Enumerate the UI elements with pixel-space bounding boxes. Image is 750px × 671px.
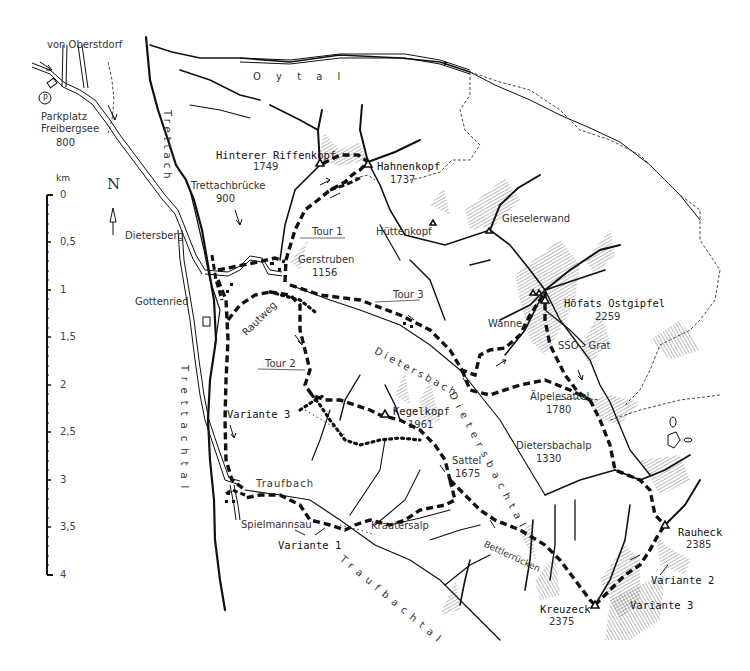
place-sattel: Sattel [452,455,481,467]
roads [32,45,470,520]
elevation-trettachbruecke: 900 [216,193,235,205]
north-label: N [107,178,120,190]
scale-tick: 2 [60,379,66,390]
settlement-markers [225,62,447,503]
place-gieselerwand: Gieselerwand [502,213,570,225]
scale-tick: 4 [60,569,66,580]
route-label-variante2: Variante 2 [651,574,714,586]
valley-oytal: O y t a l [253,71,346,83]
origin-label: von Oberstdorf [47,39,122,51]
elevation-hahnenkopf: 1737 [390,174,415,186]
route-label-variante3-east: Variante 3 [630,599,693,611]
place-rauheck: Rauheck [678,526,722,538]
north-arrow [110,208,116,235]
place-traufbach: Traufbach [256,478,314,490]
place-wanne: Wanne [488,318,522,330]
map-graphics [0,0,750,671]
place-trettachbruecke: Trettachbrücke [191,180,265,192]
place-krautersalp: Krautersalp [371,520,429,532]
place-dietersberg: Dietersberg [125,230,184,242]
parking-name-2: Freibergsee [41,123,99,135]
scale-tick: 3 [60,474,66,485]
place-aelpelesattel: Älpelesattel [530,391,589,403]
route-label-variante3-west: Variante 3 [227,408,290,420]
elevation-hinterer-riffenkopf: 1749 [253,161,278,173]
place-hinterer-riffenkopf: Hinterer Riffenkopf [216,149,336,161]
elevation-rauheck: 2385 [686,539,711,551]
place-sso-grat: SSO - Grat [558,340,610,352]
scale-unit: km [56,172,70,184]
hiking-map: von Oberstdorf P Parkplatz Freibergsee 8… [0,0,750,671]
elevation-aelpelesattel: 1780 [546,404,571,416]
parking-symbol: P [41,93,50,105]
route-label-variante1: Variante 1 [278,539,341,551]
scale-tick: 2,5 [60,426,76,437]
place-dietersbachalp: Dietersbachalp [516,440,592,452]
elevation-gerstruben: 1156 [312,267,337,279]
place-gottenried: Gottenried [135,296,189,308]
place-kegelkopf: Kegelkopf [393,405,450,417]
elevation-sattel: 1675 [455,468,480,480]
elevation-kreuzeck: 2375 [549,616,574,628]
elevation-dietersbachalp: 1330 [536,453,561,465]
scale-tick: 0,5 [60,236,76,247]
place-hoefats-ostgipfel: Höfats Ostgipfel [564,297,665,309]
route-label-tour2: Tour 2 [265,358,296,370]
lakes [668,417,692,448]
route-label-tour3: Tour 3 [393,289,424,301]
scale-tick: 0 [60,189,66,200]
place-huettenkopf: Hüttenkopf [376,226,432,238]
direction-arrows [40,62,668,575]
elevation-hoefats: 2259 [595,311,620,323]
route-label-tour1: Tour 1 [312,226,343,238]
scale-bar [47,195,53,575]
parking-elevation: 800 [56,137,75,149]
place-kreuzeck: Kreuzeck [540,603,591,615]
place-hahnenkopf: Hahnenkopf [377,160,440,172]
elevation-kegelkopf: 1961 [408,419,433,431]
scale-tick: 1,5 [60,331,76,342]
parking-name-1: Parkplatz [41,111,87,123]
valley-trettachtal: Trettachtal [178,365,190,495]
place-spielmannsau: Spielmannsau [241,519,312,531]
scale-tick: 1 [60,284,66,295]
scale-tick: 3,5 [60,521,76,532]
gottenried-building [203,317,210,326]
place-gerstruben: Gerstruben [298,254,354,266]
valley-trettach: Trettach [161,110,173,183]
